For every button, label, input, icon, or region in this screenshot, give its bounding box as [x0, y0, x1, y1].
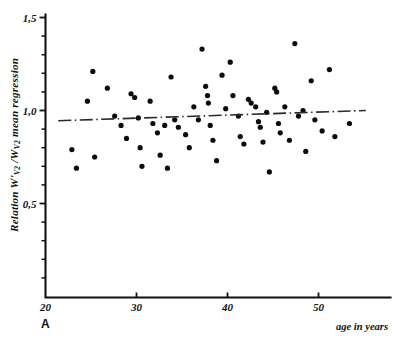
axes — [46, 15, 391, 298]
data-point — [172, 117, 177, 122]
data-point — [287, 138, 292, 143]
data-point — [118, 123, 123, 128]
data-point — [132, 95, 137, 100]
data-point — [296, 113, 301, 118]
data-point — [249, 100, 254, 105]
data-point — [139, 164, 144, 169]
data-point — [92, 154, 97, 159]
x-tick-label: 20 — [39, 301, 52, 313]
data-point — [187, 145, 192, 150]
data-point — [223, 106, 228, 111]
data-point — [238, 134, 243, 139]
data-point — [292, 41, 297, 46]
axis-lines — [46, 15, 391, 298]
data-point — [258, 125, 263, 130]
data-point — [278, 130, 283, 135]
data-point — [282, 104, 287, 109]
data-point — [183, 132, 188, 137]
y-tick-label: 1,0 — [23, 105, 37, 117]
data-point — [228, 60, 233, 65]
x-tick-label: 30 — [130, 301, 143, 313]
data-point — [327, 67, 332, 72]
data-point — [191, 104, 196, 109]
data-point — [303, 149, 308, 154]
data-point — [158, 153, 163, 158]
data-point — [260, 140, 265, 145]
data-point — [332, 134, 337, 139]
data-point — [205, 93, 210, 98]
data-point — [208, 123, 213, 128]
data-points — [69, 41, 352, 175]
data-point — [230, 93, 235, 98]
data-point — [203, 84, 208, 89]
y-tick-label: 0,5 — [23, 198, 37, 210]
data-point — [253, 104, 258, 109]
x-tick-label: 40 — [221, 301, 234, 313]
data-point — [162, 123, 167, 128]
data-point — [85, 99, 90, 104]
data-point — [196, 117, 201, 122]
panel-label: A — [41, 317, 50, 331]
data-point — [148, 99, 153, 104]
regression-line — [58, 111, 366, 121]
data-point — [165, 166, 170, 171]
data-point — [176, 125, 181, 130]
data-point — [206, 100, 211, 105]
data-point — [241, 141, 246, 146]
data-point — [312, 117, 317, 122]
data-point — [210, 138, 215, 143]
figure-panel-a: Relation W'V2 /WV2 mean regression 0,51,… — [0, 0, 394, 343]
data-point — [309, 78, 314, 83]
data-point — [219, 73, 224, 78]
data-point — [168, 74, 173, 79]
x-axis-title: age in years — [336, 321, 388, 332]
data-point — [214, 158, 219, 163]
y-axis-tick-labels: 0,51,01,5 — [23, 12, 37, 210]
data-point — [138, 145, 143, 150]
data-point — [320, 128, 325, 133]
data-point — [274, 89, 279, 94]
data-point — [155, 130, 160, 135]
data-point — [124, 136, 129, 141]
data-point — [74, 166, 79, 171]
data-point — [112, 113, 117, 118]
y-tick-label: 1,5 — [23, 12, 37, 24]
data-point — [90, 69, 95, 74]
data-point — [199, 47, 204, 52]
data-point — [276, 121, 281, 126]
data-point — [69, 147, 74, 152]
data-point — [150, 121, 155, 126]
data-point — [347, 121, 352, 126]
data-point — [267, 169, 272, 174]
data-point — [128, 91, 133, 96]
data-point — [105, 86, 110, 91]
mean-regression-line — [58, 111, 366, 121]
data-point — [256, 119, 261, 124]
x-tick-label: 50 — [313, 301, 325, 313]
scatter-plot: 0,51,01,5 20304050 age in years A — [0, 0, 394, 343]
x-axis-tick-labels: 20304050 — [39, 301, 325, 313]
